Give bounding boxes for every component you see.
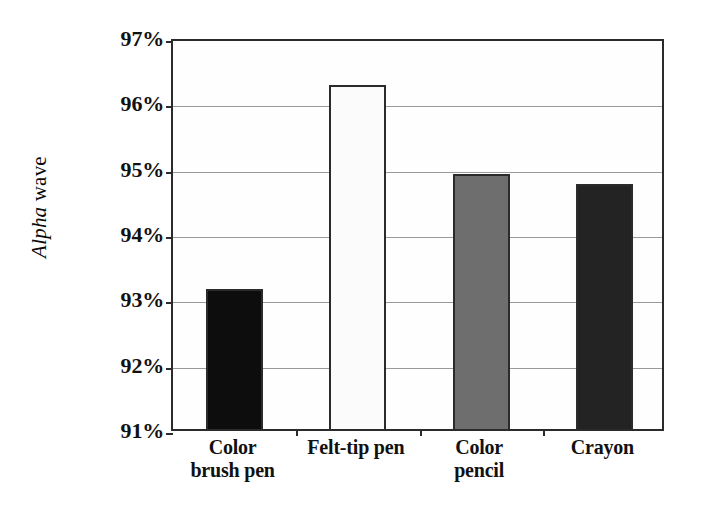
bar	[453, 174, 510, 429]
x-tick-label: Colorbrush pen	[165, 436, 300, 482]
x-axis-tick-labels: Colorbrush penFelt-tip penColorpencilCra…	[171, 436, 664, 506]
x-tick-label-line: Felt-tip pen	[288, 436, 423, 459]
y-tick-mark	[166, 106, 173, 108]
x-tick-label-line: pencil	[412, 459, 547, 482]
y-tick-label: 91%	[78, 420, 164, 442]
y-tick-label: 96%	[78, 93, 164, 115]
y-tick-mark	[166, 237, 173, 239]
bar	[206, 289, 263, 429]
x-tick-label-line: Color	[412, 436, 547, 459]
x-tick-mark	[420, 429, 422, 436]
y-tick-label: 93%	[78, 289, 164, 311]
bar	[576, 184, 633, 429]
y-axis-tick-labels: 97%96%95%94%93%92%91%	[72, 0, 164, 511]
x-tick-label-line: brush pen	[165, 459, 300, 482]
y-tick-label: 97%	[78, 28, 164, 50]
y-axis-title-roman-part: wave	[27, 156, 51, 207]
y-tick-label: 94%	[78, 224, 164, 246]
gridline	[173, 106, 662, 107]
y-tick-mark	[166, 172, 173, 174]
y-tick-mark	[166, 433, 173, 435]
x-tick-label-line: Color	[165, 436, 300, 459]
x-tick-label: Colorpencil	[412, 436, 547, 482]
y-tick-label: 95%	[78, 159, 164, 181]
x-tick-mark	[296, 429, 298, 436]
y-axis-title: Alpha wave	[27, 127, 57, 287]
y-tick-mark	[166, 302, 173, 304]
x-tick-label: Felt-tip pen	[288, 436, 423, 459]
bar-chart: Alpha wave 97%96%95%94%93%92%91% Colorbr…	[0, 0, 709, 511]
x-tick-mark	[543, 429, 545, 436]
gridline	[173, 172, 662, 173]
y-tick-mark	[166, 368, 173, 370]
x-tick-label-line: Crayon	[535, 436, 670, 459]
bar	[329, 85, 386, 429]
y-tick-mark	[166, 41, 173, 43]
x-tick-label: Crayon	[535, 436, 670, 459]
y-axis-title-italic-part: Alpha	[27, 207, 51, 258]
plot-area	[171, 39, 664, 431]
y-tick-label: 92%	[78, 355, 164, 377]
